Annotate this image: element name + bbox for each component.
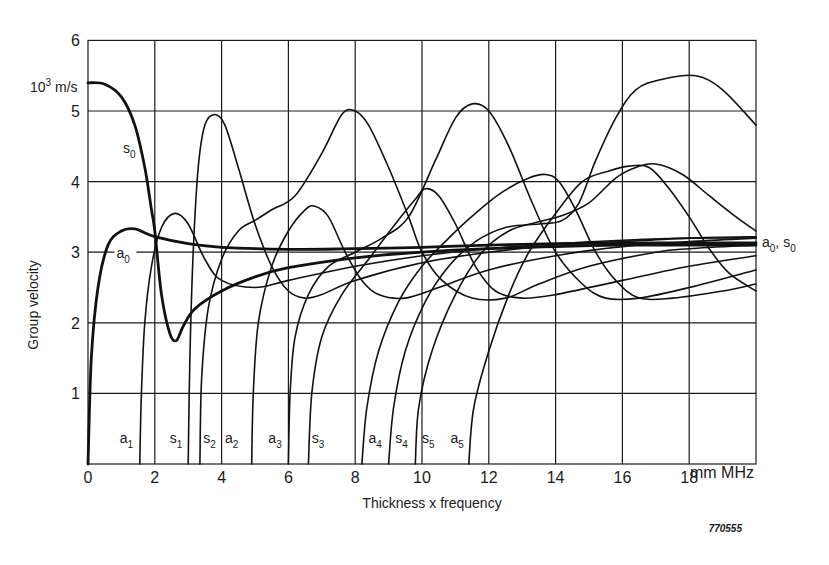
x-tick-label: 16 — [614, 469, 632, 486]
curve-s4 — [389, 75, 756, 464]
mode-label-s0: s0 — [123, 140, 136, 160]
x-tick-label: 4 — [217, 469, 226, 486]
y-axis-title: Group velocity — [25, 260, 41, 349]
curve-s2 — [200, 109, 756, 464]
figure-id: 770555 — [709, 523, 743, 534]
mode-label-s3: s3 — [312, 430, 325, 450]
curve-a3 — [288, 104, 756, 464]
mode-label-s5: s5 — [422, 430, 435, 450]
y-unit-label: 103 m/s — [30, 77, 78, 95]
curve-a5 — [469, 165, 756, 464]
mode-label-a4: a4 — [369, 430, 383, 450]
mode-label-a3: a3 — [268, 430, 282, 450]
axis-ticks: 024681012141618123456 — [71, 32, 698, 486]
x-tick-label: 12 — [480, 469, 498, 486]
curve-s5 — [415, 164, 756, 464]
x-tick-label: 14 — [547, 469, 565, 486]
x-tick-label: 2 — [150, 469, 159, 486]
mode-label-s1: s1 — [170, 430, 183, 450]
y-tick-label: 4 — [71, 174, 80, 191]
x-tick-label: 10 — [413, 469, 431, 486]
mode-label-a5: a5 — [450, 430, 464, 450]
mode-label-s4: s4 — [395, 430, 408, 450]
right-mode-label: a0, s0 — [762, 234, 796, 254]
curve-s1 — [188, 115, 756, 465]
x-tick-label: 0 — [84, 469, 93, 486]
x-unit-label: mm MHz — [690, 464, 754, 481]
y-tick-label: 2 — [71, 315, 80, 332]
y-tick-label: 6 — [71, 32, 80, 49]
x-tick-label: 8 — [351, 469, 360, 486]
x-tick-label: 6 — [284, 469, 293, 486]
x-axis-title: Thickness x frequency — [362, 495, 501, 511]
y-tick-label: 3 — [71, 244, 80, 261]
curve-a4 — [362, 174, 756, 464]
mode-label-a1: a1 — [120, 430, 134, 450]
y-tick-label: 1 — [71, 385, 80, 402]
y-tick-label: 5 — [71, 103, 80, 120]
group-velocity-chart: 024681012141618123456 s0a0a1s1s2a2a3s3a4… — [0, 0, 829, 565]
mode-label-a2: a2 — [225, 430, 239, 450]
mode-label-s2: s2 — [203, 430, 216, 450]
